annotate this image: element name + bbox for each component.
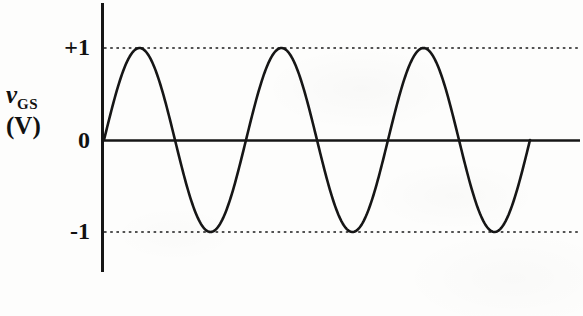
- y-axis-subscript: GS: [17, 96, 38, 112]
- waveform-figure: vGS (V) +1 0 -1: [0, 0, 583, 316]
- y-tick-label-plus-one: +1: [28, 34, 90, 61]
- y-tick-label-minus-one: -1: [28, 218, 90, 245]
- y-tick-label-zero: 0: [28, 127, 90, 154]
- y-axis-symbol: vGS: [6, 82, 72, 112]
- y-axis-symbol-text: v: [6, 81, 17, 108]
